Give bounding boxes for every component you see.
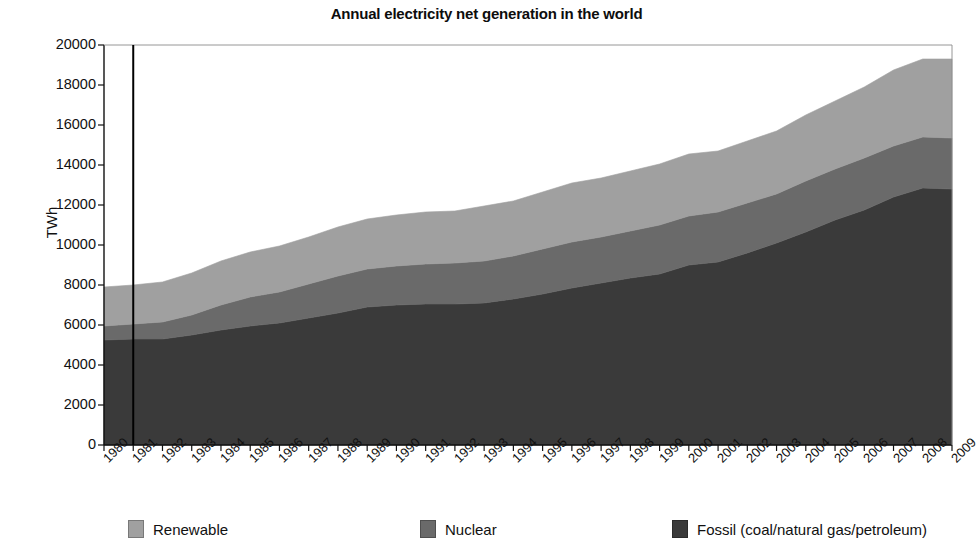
legend-item[interactable]: Fossil (coal/natural gas/petroleum): [672, 520, 927, 538]
stacked-area-series: [104, 59, 952, 445]
legend-label: Nuclear: [445, 521, 497, 538]
legend-swatch-icon: [128, 520, 144, 538]
legend-swatch-icon: [420, 520, 436, 538]
legend-swatch-icon: [672, 520, 688, 538]
chart-legend: RenewableNuclearFossil (coal/natural gas…: [0, 516, 973, 546]
legend-label: Renewable: [153, 521, 228, 538]
legend-item[interactable]: Renewable: [128, 520, 228, 538]
legend-label: Fossil (coal/natural gas/petroleum): [697, 521, 927, 538]
legend-item[interactable]: Nuclear: [420, 520, 497, 538]
